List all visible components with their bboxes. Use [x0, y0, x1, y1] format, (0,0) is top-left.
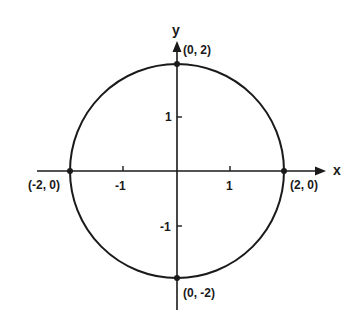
graph-canvas: y x -1 1 1 -1 (0, 2) (-2, 0) (2, 0) (0, … — [0, 0, 356, 325]
point-bottom — [174, 275, 180, 281]
y-tick-label-neg1: -1 — [160, 220, 171, 234]
point-top — [174, 61, 180, 67]
point-label-left: (-2, 0) — [28, 178, 60, 192]
x-axis-label: x — [333, 162, 341, 178]
point-label-bottom: (0, -2) — [183, 286, 215, 300]
point-label-top: (0, 2) — [183, 43, 211, 57]
point-label-right: (2, 0) — [290, 178, 318, 192]
y-axis-arrow-icon — [173, 41, 182, 52]
point-left — [67, 168, 73, 174]
circle-graph-figure: y x -1 1 1 -1 (0, 2) (-2, 0) (2, 0) (0, … — [0, 0, 356, 325]
y-tick-label-pos1: 1 — [165, 110, 172, 124]
x-axis-arrow-icon — [315, 167, 326, 176]
point-right — [281, 168, 287, 174]
x-tick-label-pos1: 1 — [226, 179, 233, 193]
y-axis-label: y — [172, 22, 180, 38]
x-tick-label-neg1: -1 — [115, 179, 126, 193]
